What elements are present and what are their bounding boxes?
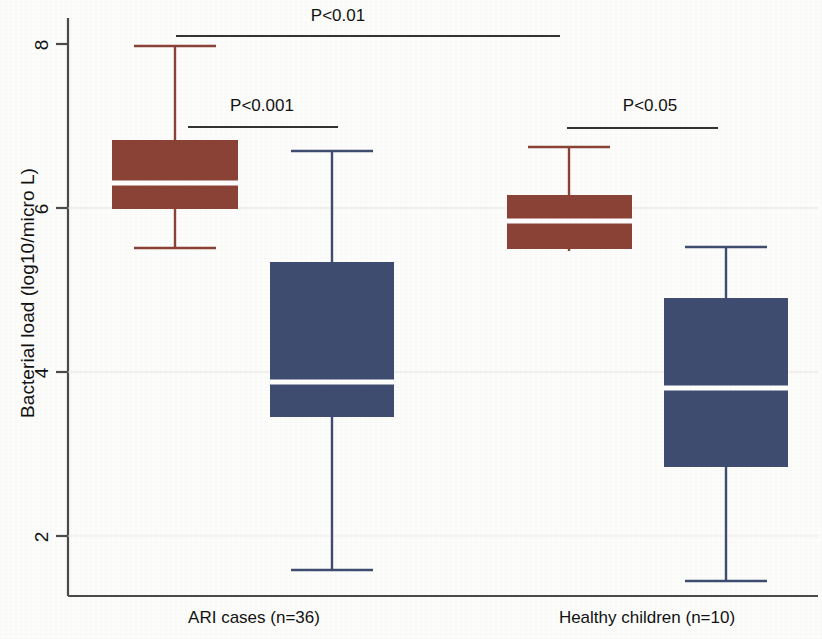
p-value-healthy: P<0.05 (580, 96, 720, 116)
box-body (270, 262, 394, 417)
box-body (112, 140, 238, 209)
box-body (664, 298, 788, 467)
box-red-ari (112, 46, 238, 248)
y-tick-label-8: 8 (8, 34, 48, 56)
box-blue-healthy (664, 247, 788, 581)
x-category-label-ari: ARI cases (n=36) (104, 608, 404, 628)
y-tick-label-4: 4 (8, 362, 48, 384)
box-plot-figure: Bacterial load (log10/micro L) 8 6 4 2 A… (0, 0, 822, 639)
p-value-overall: P<0.01 (268, 6, 408, 26)
y-axis-title: Bacterial load (log10/micro L) (17, 53, 39, 533)
y-tick-label-6: 6 (8, 198, 48, 220)
box-blue-ari (270, 151, 394, 570)
y-tick-label-2: 2 (8, 526, 48, 548)
p-value-ari: P<0.001 (192, 96, 332, 116)
x-category-label-healthy: Healthy children (n=10) (497, 608, 797, 628)
box-red-healthy (507, 147, 632, 251)
